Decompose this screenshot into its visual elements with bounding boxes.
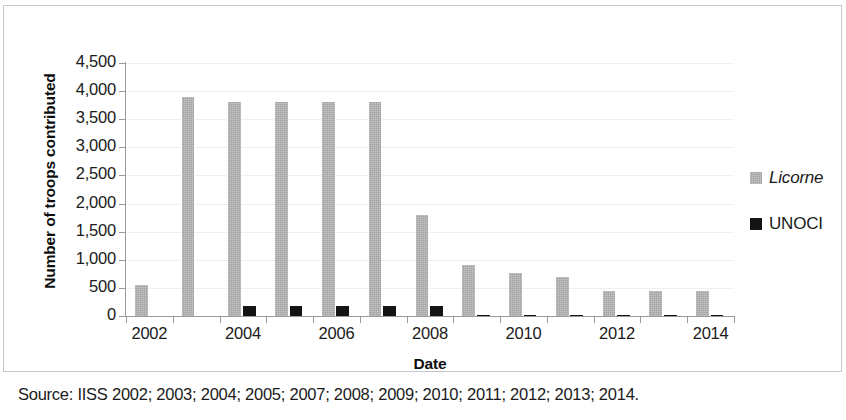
legend-item-unoci[interactable]: UNOCI bbox=[750, 212, 846, 236]
bar-unoci-2013 bbox=[664, 315, 677, 316]
chart-frame: Number of troops contributed 05001,0001,… bbox=[3, 5, 842, 372]
y-axis-tick-label: 4,500 bbox=[44, 52, 116, 71]
y-axis-tick-mark bbox=[119, 147, 126, 148]
gridline bbox=[126, 119, 734, 120]
x-axis-tick-mark bbox=[407, 317, 408, 323]
bar-unoci-2014 bbox=[711, 315, 724, 316]
gridline bbox=[126, 147, 734, 148]
gridline bbox=[126, 204, 734, 205]
bar-licorne-2004 bbox=[228, 102, 241, 316]
bar-licorne-2010 bbox=[509, 273, 522, 316]
bar-licorne-2014 bbox=[696, 291, 709, 316]
legend-label: Licorne bbox=[769, 168, 823, 188]
chart-legend: LicorneUNOCI bbox=[750, 166, 846, 258]
x-axis-tick-mark bbox=[547, 317, 548, 323]
y-axis-tick-label: 3,000 bbox=[44, 136, 116, 155]
legend-swatch-icon bbox=[750, 172, 762, 184]
gridline bbox=[126, 232, 734, 233]
bar-licorne-2006 bbox=[322, 102, 335, 316]
bar-unoci-2009 bbox=[477, 315, 490, 316]
bar-unoci-2007 bbox=[383, 306, 396, 316]
y-axis-tick-label: 500 bbox=[44, 277, 116, 296]
legend-label: UNOCI bbox=[769, 214, 823, 234]
y-axis-tick-label: 2,500 bbox=[44, 164, 116, 183]
figure-container: Number of troops contributed 05001,0001,… bbox=[0, 0, 846, 420]
y-axis-tick-label: 2,000 bbox=[44, 193, 116, 212]
bar-unoci-2006 bbox=[336, 306, 349, 316]
y-axis-tick-mark bbox=[119, 175, 126, 176]
y-axis-tick-mark bbox=[119, 91, 126, 92]
x-axis-tick-mark bbox=[313, 317, 314, 323]
y-axis-tick-mark bbox=[119, 260, 126, 261]
bar-licorne-2007 bbox=[369, 102, 382, 316]
bar-licorne-2002 bbox=[135, 285, 148, 316]
x-axis-tick-label: 2010 bbox=[479, 324, 569, 343]
bar-unoci-2010 bbox=[524, 315, 537, 316]
y-axis-tick-mark bbox=[119, 63, 126, 64]
y-axis-tick-mark bbox=[119, 316, 126, 317]
bar-unoci-2008 bbox=[430, 306, 443, 316]
y-axis-tick-label: 3,500 bbox=[44, 108, 116, 127]
x-axis-tick-mark bbox=[453, 317, 454, 323]
x-axis-tick-mark bbox=[360, 317, 361, 323]
bar-licorne-2009 bbox=[462, 265, 475, 316]
bar-licorne-2013 bbox=[649, 291, 662, 316]
gridline bbox=[126, 260, 734, 261]
gridline bbox=[126, 288, 734, 289]
plot-area bbox=[126, 63, 734, 316]
y-axis-tick-label: 1,500 bbox=[44, 221, 116, 240]
x-axis-tick-label: 2002 bbox=[104, 324, 194, 343]
x-axis-tick-mark bbox=[687, 317, 688, 323]
bar-licorne-2011 bbox=[556, 277, 569, 316]
bar-licorne-2005 bbox=[275, 102, 288, 316]
x-axis-tick-mark bbox=[734, 317, 735, 323]
y-axis-tick-mark bbox=[119, 288, 126, 289]
x-axis-tick-mark bbox=[500, 317, 501, 323]
source-caption: Source: IISS 2002; 2003; 2004; 2005; 200… bbox=[18, 385, 639, 404]
x-axis-tick-mark bbox=[594, 317, 595, 323]
x-axis-line bbox=[125, 316, 735, 317]
x-axis-title: Date bbox=[126, 355, 734, 373]
legend-item-licorne[interactable]: Licorne bbox=[750, 166, 846, 190]
x-axis-tick-label: 2008 bbox=[385, 324, 475, 343]
bar-licorne-2008 bbox=[416, 215, 429, 316]
y-axis-tick-label: 4,000 bbox=[44, 80, 116, 99]
y-axis-tick-label: 0 bbox=[44, 305, 116, 324]
bar-unoci-2011 bbox=[570, 315, 583, 316]
bar-unoci-2012 bbox=[617, 315, 630, 316]
y-axis-tick-label: 1,000 bbox=[44, 249, 116, 268]
x-axis-tick-mark bbox=[266, 317, 267, 323]
bar-unoci-2004 bbox=[243, 306, 256, 316]
y-axis-tick-mark bbox=[119, 204, 126, 205]
bar-licorne-2003 bbox=[182, 97, 195, 316]
x-axis-tick-label: 2012 bbox=[572, 324, 662, 343]
x-axis-tick-label: 2014 bbox=[666, 324, 756, 343]
x-axis-tick-mark bbox=[126, 317, 127, 323]
bar-unoci-2005 bbox=[290, 306, 303, 316]
x-axis-tick-label: 2006 bbox=[291, 324, 381, 343]
plot-background bbox=[126, 63, 734, 316]
gridline bbox=[126, 63, 734, 64]
x-axis-tick-label: 2004 bbox=[198, 324, 288, 343]
x-axis-tick-mark bbox=[220, 317, 221, 323]
gridline bbox=[126, 175, 734, 176]
x-axis-tick-mark bbox=[173, 317, 174, 323]
x-axis-tick-mark bbox=[640, 317, 641, 323]
bar-licorne-2012 bbox=[603, 291, 616, 316]
y-axis-tick-mark bbox=[119, 232, 126, 233]
gridline bbox=[126, 91, 734, 92]
y-axis-tick-labels: 05001,0001,5002,0002,5003,0003,5004,0004… bbox=[40, 6, 116, 373]
y-axis-tick-mark bbox=[119, 119, 126, 120]
legend-swatch-icon bbox=[750, 218, 762, 230]
